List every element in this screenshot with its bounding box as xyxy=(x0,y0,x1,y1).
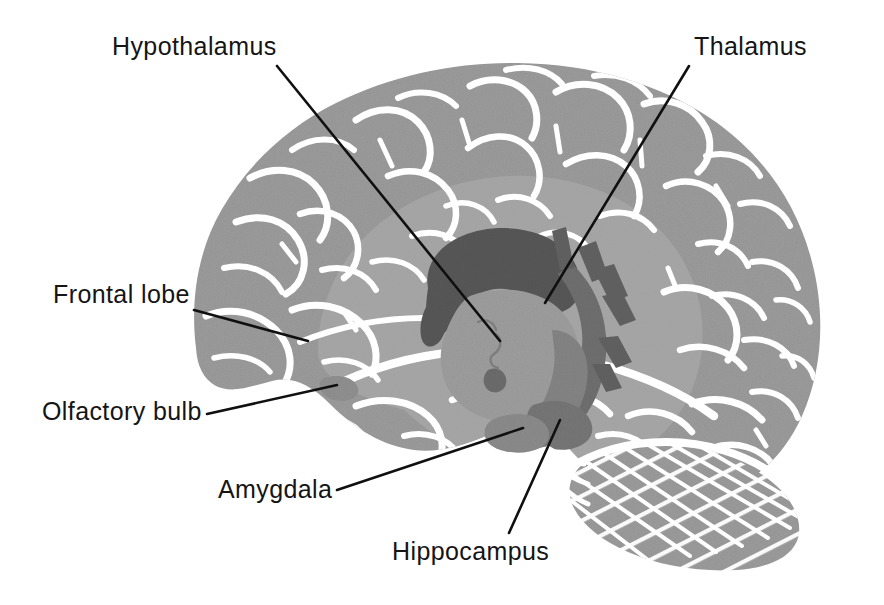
amygdala-body xyxy=(485,414,550,453)
label-olfactory-bulb: Olfactory bulb xyxy=(42,397,202,425)
label-hypothalamus: Hypothalamus xyxy=(112,32,277,60)
label-thalamus: Thalamus xyxy=(694,32,807,60)
label-hippocampus: Hippocampus xyxy=(392,537,549,565)
brain-illustration: Hypothalamus Thalamus Frontal lobe Olfac… xyxy=(0,0,884,605)
brain-diagram-figure: Hypothalamus Thalamus Frontal lobe Olfac… xyxy=(0,0,884,605)
label-amygdala: Amygdala xyxy=(218,475,332,503)
label-frontal-lobe: Frontal lobe xyxy=(53,280,190,308)
